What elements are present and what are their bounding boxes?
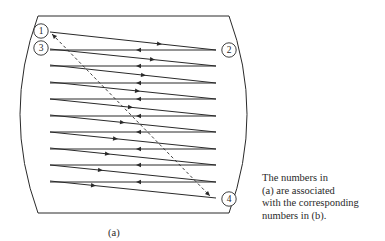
return-arrow-icon (136, 163, 141, 167)
point-label: 1 (39, 26, 44, 36)
return-arrow-icon (136, 180, 141, 184)
point-label: 4 (227, 194, 232, 204)
return-arrow-icon (136, 130, 141, 134)
vertical-retrace-line (52, 34, 210, 196)
return-arrow-icon (136, 147, 141, 151)
caption-line: (a) are associated (262, 185, 359, 198)
subfigure-label: (a) (108, 227, 120, 238)
scan-line-forward (50, 181, 216, 198)
point-label: 2 (227, 45, 232, 55)
point-3: 3 (34, 41, 48, 55)
scan-line-forward (50, 165, 216, 182)
point-1: 1 (34, 24, 48, 38)
return-arrow-icon (136, 81, 141, 85)
scan-lines (50, 32, 216, 198)
return-arrow-icon (136, 114, 141, 118)
point-4: 4 (222, 192, 236, 206)
screen-outline (20, 16, 247, 213)
return-arrow-icon (136, 97, 141, 101)
figure-caption: The numbers in (a) are associated with t… (262, 172, 359, 222)
caption-line: with the corresponding (262, 197, 359, 210)
scan-line-forward (50, 49, 216, 66)
caption-line: The numbers in (262, 172, 359, 185)
return-arrow-icon (136, 64, 141, 68)
scan-line-forward (50, 132, 216, 149)
caption-line: numbers in (b). (262, 210, 359, 223)
point-label: 3 (39, 43, 44, 53)
retrace-dashed-line (52, 34, 210, 196)
point-2: 2 (222, 43, 236, 57)
return-arrow-icon (136, 48, 141, 52)
scan-line-forward (50, 148, 216, 165)
scan-line-forward (50, 82, 216, 99)
scan-line-forward (50, 65, 216, 83)
scan-line-forward (50, 32, 216, 50)
